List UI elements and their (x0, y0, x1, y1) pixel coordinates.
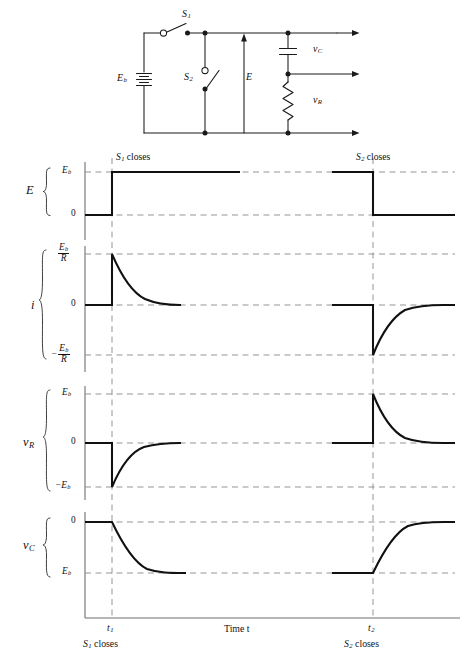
panel-i-waveform (85, 254, 455, 355)
tick-i-Eb-over-R: Eb R (58, 243, 69, 263)
tick-E-Eb: Eb (62, 166, 71, 176)
e-arrow-head (241, 34, 247, 42)
panel-i (85, 246, 455, 372)
s1-blade (167, 24, 186, 33)
s1-left-terminal (160, 30, 166, 36)
terminal-voltage-label: E (246, 72, 252, 82)
panel-vR (85, 386, 455, 500)
mid-output-arrowhead (352, 71, 360, 77)
brace-i (39, 250, 46, 359)
panel-E (85, 162, 455, 240)
figure-root: Eb S1 S2 E vC vR S1 closes S2 closes E E… (0, 0, 467, 658)
capacitor-symbol (280, 49, 297, 55)
switch1-label: S1 (182, 9, 191, 20)
panel-E-waveform (85, 172, 455, 215)
time-marker-t1: t1 (107, 623, 113, 634)
tick-i-neg-Eb-over-R: − Eb R (51, 344, 70, 364)
event-guide-lines (112, 158, 373, 618)
time-marker-t2-caption: S2 closes (344, 639, 379, 650)
panel-vC-waveform (85, 522, 455, 573)
tick-vR-Eb: Eb (62, 388, 71, 398)
battery-label: Eb (117, 73, 127, 84)
panel-vR-waveform (85, 394, 455, 487)
annotation-s2-closes: S2 closes (356, 152, 390, 163)
tick-vR-zero: 0 (71, 437, 76, 446)
capacitor-voltage-label: vC (313, 44, 322, 55)
tick-i-zero: 0 (71, 299, 76, 308)
time-axis-label: Time t (224, 624, 250, 634)
resistor-voltage-label: vR (313, 95, 322, 106)
resistor-symbol (283, 82, 293, 120)
tick-vR-neg-Eb: −Eb (55, 481, 71, 491)
axis-label-E: E (26, 184, 34, 197)
axis-label-vR: vR (23, 436, 34, 449)
switch2-label: S2 (184, 72, 193, 83)
panel-vC (85, 512, 455, 618)
axis-label-i: i (31, 299, 34, 312)
time-marker-t1-caption: S1 closes (83, 639, 118, 650)
tick-vC-zero: 0 (71, 516, 76, 525)
top-rail-arrowhead (352, 30, 360, 36)
axis-label-vC: vC (23, 539, 35, 552)
brace-E (43, 168, 50, 216)
tick-vC-Eb: Eb (62, 567, 71, 577)
brace-vR (43, 390, 50, 491)
tick-E-zero: 0 (71, 209, 76, 218)
bottom-rail-arrowhead (352, 130, 360, 136)
time-marker-t2: t2 (368, 623, 374, 634)
battery-symbol (137, 74, 152, 86)
brace-vC (43, 518, 50, 577)
annotation-s1-closes: S1 closes (116, 152, 150, 163)
s2-top-terminal (202, 67, 208, 73)
figure-canvas (0, 0, 467, 658)
axis-braces (39, 168, 50, 577)
s2-blade (207, 71, 220, 89)
